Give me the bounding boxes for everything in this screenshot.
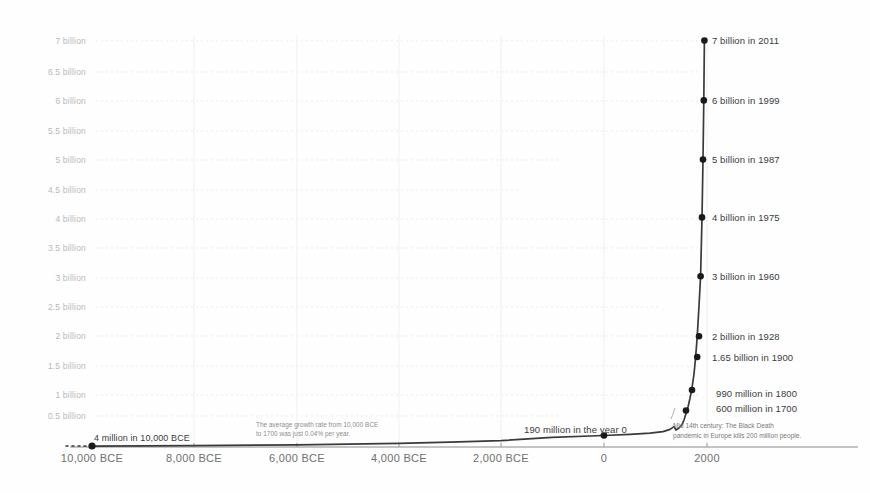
marker-4billion-1975 bbox=[699, 214, 706, 221]
population-growth-chart: 7 billion 6.5 billion 6 billion 5.5 bill… bbox=[0, 0, 870, 493]
point-label-6billion: 6 billion in 1999 bbox=[712, 95, 780, 106]
y-tick-label: 4.5 billion bbox=[2, 185, 86, 195]
marker-6billion-1999 bbox=[701, 97, 708, 104]
point-label-165billion: 1.65 billion in 1900 bbox=[712, 352, 793, 363]
gridlines-vertical bbox=[194, 35, 707, 445]
y-tick-label: 3 billion bbox=[2, 273, 86, 283]
marker-990million-1800 bbox=[689, 387, 696, 394]
x-tick-label: 0 bbox=[601, 452, 607, 464]
black-death-leader bbox=[671, 408, 675, 419]
y-tick-label: 6 billion bbox=[2, 96, 86, 106]
x-tick-label: 2000 bbox=[694, 452, 720, 464]
point-label-7billion: 7 billion in 2011 bbox=[712, 35, 779, 46]
data-point-markers bbox=[88, 37, 707, 449]
marker-4million-10000bce bbox=[88, 442, 95, 449]
point-label-2billion: 2 billion in 1928 bbox=[712, 331, 780, 342]
y-tick-label: 7 billion bbox=[2, 36, 86, 46]
gridlines-horizontal bbox=[96, 41, 700, 416]
point-label-4billion: 4 billion in 1975 bbox=[712, 212, 780, 223]
point-label-4million-10000bce: 4 million in 10,000 BCE bbox=[94, 433, 190, 443]
marker-5billion-1987 bbox=[700, 156, 707, 163]
y-tick-label: 5.5 billion bbox=[2, 126, 86, 136]
y-tick-label: 3.5 billion bbox=[2, 243, 86, 253]
x-tick-label: 4,000 BCE bbox=[371, 452, 427, 464]
y-tick-label: 0.5 billion bbox=[2, 411, 86, 421]
marker-3billion-1960 bbox=[697, 273, 704, 280]
y-tick-label: 4 billion bbox=[2, 214, 86, 224]
y-tick-label: 1.5 billion bbox=[2, 361, 86, 371]
marker-600million-1700 bbox=[683, 407, 690, 414]
x-tick-label: 2,000 BCE bbox=[473, 452, 529, 464]
x-tick-label: 6,000 BCE bbox=[269, 452, 325, 464]
y-tick-label: 6.5 billion bbox=[2, 67, 86, 77]
chart-canvas bbox=[0, 0, 870, 493]
growth-rate-note: The average growth rate from 10,000 BCE … bbox=[256, 420, 378, 439]
point-label-3billion: 3 billion in 1960 bbox=[712, 271, 780, 282]
marker-7billion-2011 bbox=[701, 37, 708, 44]
x-tick-label: 8,000 BCE bbox=[166, 452, 222, 464]
point-label-990million: 990 million in 1800 bbox=[716, 388, 797, 399]
marker-165billion-1900 bbox=[694, 354, 701, 361]
y-tick-label: 5 billion bbox=[2, 155, 86, 165]
x-tick-label: 10,000 BCE bbox=[61, 452, 123, 464]
y-tick-label: 2.5 billion bbox=[2, 302, 86, 312]
point-label-190million-year0: 190 million in the year 0 bbox=[524, 424, 627, 435]
marker-2billion-1928 bbox=[696, 333, 703, 340]
y-tick-label: 1 billion bbox=[2, 390, 86, 400]
y-tick-label: 2 billion bbox=[2, 331, 86, 341]
black-death-note: Mid 14th century: The Black Death pandem… bbox=[673, 421, 801, 441]
point-label-5billion: 5 billion in 1987 bbox=[712, 154, 780, 165]
point-label-600million: 600 million in 1700 bbox=[716, 403, 797, 414]
